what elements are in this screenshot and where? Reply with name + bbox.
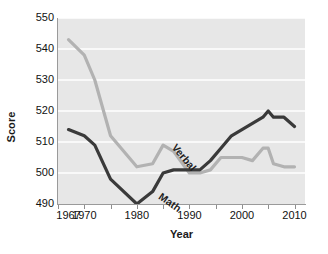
x-tick-label: 1980: [125, 210, 149, 221]
x-axis-title: Year: [58, 228, 305, 240]
x-tick-label: 1970: [72, 210, 96, 221]
x-tick-label: 1990: [177, 210, 201, 221]
x-tick-label: 2010: [282, 210, 306, 221]
y-tick-label: 530: [22, 74, 54, 85]
plot-area: Verbal Math: [58, 18, 305, 204]
x-tick-mark: [216, 205, 217, 209]
series-lines: [69, 40, 295, 204]
x-tick-mark: [111, 205, 112, 209]
y-tick-label: 520: [22, 105, 54, 116]
x-tick-label: 2000: [230, 210, 254, 221]
y-tick-label: 550: [22, 12, 54, 23]
x-tick-mark: [268, 205, 269, 209]
y-tick-label: 540: [22, 43, 54, 54]
sat-score-line-chart: Score 490500510520530540550 Verbal Math …: [0, 0, 328, 254]
y-tick-label: 490: [22, 198, 54, 209]
x-axis-tick-labels: 196719701980199020002010: [0, 210, 328, 226]
plot-svg: [58, 18, 305, 204]
y-tick-label: 510: [22, 136, 54, 147]
x-tick-mark: [163, 205, 164, 209]
y-tick-label: 500: [22, 167, 54, 178]
